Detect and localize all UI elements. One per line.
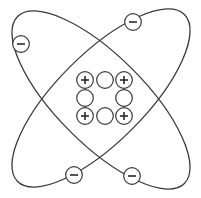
- atom-diagram: [0, 0, 201, 198]
- atom-diagram-canvas: [0, 0, 201, 198]
- electron: [66, 167, 83, 184]
- electron: [13, 36, 30, 53]
- electron: [125, 14, 142, 31]
- electron-orbit: [0, 0, 201, 198]
- neutron: [77, 90, 94, 107]
- electron: [124, 168, 141, 185]
- proton: [77, 72, 94, 89]
- electron-orbit: [0, 0, 201, 198]
- neutron: [97, 72, 114, 89]
- proton: [77, 108, 94, 125]
- neutron: [97, 108, 114, 125]
- proton: [116, 108, 133, 125]
- proton: [116, 72, 133, 89]
- neutron: [116, 90, 133, 107]
